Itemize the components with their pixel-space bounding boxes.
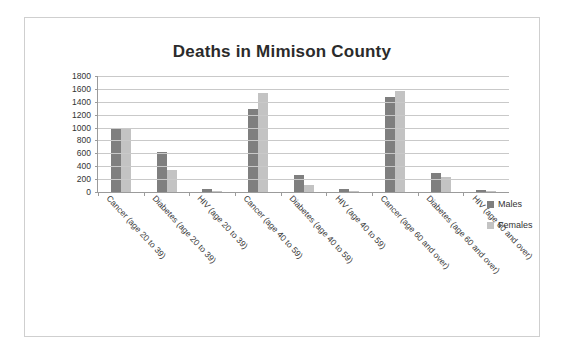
bar-males[interactable] — [431, 173, 441, 192]
y-tick-label: 1600 — [72, 85, 91, 94]
y-tick-mark — [95, 192, 98, 193]
gridline — [98, 166, 509, 167]
plot-area — [97, 76, 509, 193]
x-tick-mark — [98, 192, 99, 196]
x-tick-mark — [235, 192, 236, 196]
bar-group — [189, 76, 235, 192]
chart-title: Deaths in Mimison County — [25, 42, 539, 62]
y-tick-mark — [95, 179, 98, 180]
legend-label: Males — [498, 200, 522, 209]
x-tick-mark — [372, 192, 373, 196]
bar-females[interactable] — [349, 191, 359, 192]
bar-group — [98, 76, 144, 192]
bar-group — [372, 76, 418, 192]
bars-layer — [98, 76, 509, 192]
gridline — [98, 179, 509, 180]
y-tick-label: 1400 — [72, 98, 91, 107]
bar-group — [418, 76, 464, 192]
bar-males[interactable] — [157, 152, 167, 192]
y-tick-mark — [95, 89, 98, 90]
bar-females[interactable] — [304, 185, 314, 192]
x-axis-tick-label: HIV (age 40 to 59) — [333, 194, 387, 251]
gridline — [98, 153, 509, 154]
x-tick-mark — [418, 192, 419, 196]
gridline — [98, 128, 509, 129]
bar-group — [235, 76, 281, 192]
gridline — [98, 76, 509, 77]
y-tick-mark — [95, 140, 98, 141]
chart-container: Deaths in Mimison County 180016001400120… — [24, 17, 540, 337]
legend-swatch-icon — [487, 222, 494, 229]
bar-females[interactable] — [212, 191, 222, 192]
y-tick-mark — [95, 153, 98, 154]
bar-females[interactable] — [486, 191, 496, 192]
bar-males[interactable] — [202, 189, 212, 192]
bar-group — [281, 76, 327, 192]
bar-group — [463, 76, 509, 192]
bar-females[interactable] — [395, 91, 405, 192]
y-tick-mark — [95, 128, 98, 129]
bar-males[interactable] — [476, 190, 486, 192]
bar-males[interactable] — [385, 97, 395, 192]
y-tick-mark — [95, 166, 98, 167]
chart-legend: MalesFemales — [487, 200, 562, 242]
y-tick-label: 400 — [77, 162, 91, 171]
x-tick-mark — [326, 192, 327, 196]
plot-wrapper: 180016001400120010008006004002000 — [61, 76, 509, 198]
x-tick-mark — [144, 192, 145, 196]
y-tick-label: 1200 — [72, 110, 91, 119]
legend-swatch-icon — [487, 201, 494, 208]
bar-females[interactable] — [121, 128, 131, 192]
legend-item-females[interactable]: Females — [487, 221, 562, 230]
x-tick-mark — [189, 192, 190, 196]
bar-females[interactable] — [258, 93, 268, 192]
bar-group — [144, 76, 190, 192]
gridline — [98, 89, 509, 90]
bar-males[interactable] — [111, 128, 121, 192]
y-tick-label: 800 — [77, 136, 91, 145]
bar-females[interactable] — [167, 170, 177, 192]
gridline — [98, 102, 509, 103]
y-tick-label: 0 — [86, 188, 91, 197]
y-axis: 180016001400120010008006004002000 — [61, 76, 91, 192]
bar-group — [326, 76, 372, 192]
y-tick-label: 1000 — [72, 123, 91, 132]
bar-males[interactable] — [339, 189, 349, 192]
bar-males[interactable] — [294, 175, 304, 192]
gridline — [98, 115, 509, 116]
y-tick-label: 1800 — [72, 72, 91, 81]
legend-item-males[interactable]: Males — [487, 200, 562, 209]
y-tick-label: 600 — [77, 149, 91, 158]
x-tick-mark — [463, 192, 464, 196]
y-tick-mark — [95, 115, 98, 116]
gridline — [98, 140, 509, 141]
legend-label: Females — [498, 221, 533, 230]
y-tick-mark — [95, 76, 98, 77]
y-tick-mark — [95, 102, 98, 103]
y-tick-label: 200 — [77, 175, 91, 184]
x-tick-mark — [281, 192, 282, 196]
